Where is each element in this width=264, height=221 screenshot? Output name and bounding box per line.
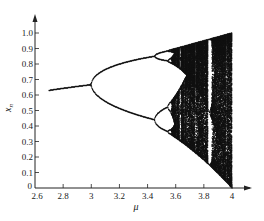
- x-axis-arrow-icon: [244, 186, 252, 191]
- y-axis-arrow-icon: [33, 14, 38, 22]
- y-tick-label: 0.5: [22, 106, 34, 116]
- y-axis-label: xn: [2, 104, 15, 113]
- y-tick-label: 1.0: [22, 28, 34, 38]
- x-tick-label: 3: [89, 191, 94, 201]
- svg-text:xn: xn: [2, 104, 15, 113]
- x-ticks: 2.62.833.23.43.63.84: [31, 184, 234, 201]
- x-tick-label: 3.6: [170, 191, 182, 201]
- x-tick-label: 3.8: [198, 191, 210, 201]
- attractor-points: [49, 32, 233, 188]
- x-tick-label: 2.8: [58, 191, 70, 201]
- bifurcation-chart: 2.62.833.23.43.63.84 00.10.20.30.40.50.6…: [0, 0, 264, 221]
- y-tick-label: 0.2: [22, 152, 33, 162]
- x-tick-label: 3.2: [114, 191, 125, 201]
- y-tick-label: 0.7: [22, 75, 34, 85]
- y-tick-label: 0.6: [22, 90, 34, 100]
- x-tick-label: 3.4: [142, 191, 154, 201]
- y-tick-label: 0.3: [22, 137, 34, 147]
- y-tick-label: 0: [28, 181, 33, 191]
- y-ticks: 00.10.20.30.40.50.60.70.80.91.0: [22, 28, 39, 191]
- x-axis-label: μ: [132, 201, 138, 212]
- x-tick-label: 2.6: [31, 191, 43, 201]
- x-tick-label: 4: [230, 191, 235, 201]
- y-tick-label: 0.4: [22, 121, 34, 131]
- y-tick-label: 0.8: [22, 59, 34, 69]
- y-tick-label: 0.1: [22, 168, 33, 178]
- y-tick-label: 0.9: [22, 44, 34, 54]
